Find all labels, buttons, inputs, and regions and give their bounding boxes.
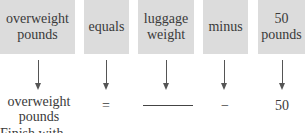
box-label-line1: luggage	[144, 11, 188, 26]
minus-sign: −	[221, 98, 229, 113]
box-label: equals	[89, 19, 125, 35]
box-equals: equals	[84, 0, 129, 54]
result-equals-sign: =	[96, 98, 116, 113]
equals-sign: =	[102, 98, 110, 113]
down-arrow-icon	[278, 60, 287, 90]
value-50: 50	[275, 98, 289, 113]
result-line1: overweight	[8, 94, 71, 109]
box-label: minus	[208, 19, 242, 35]
result-overweight-pounds: overweightpounds	[0, 94, 78, 124]
box-label-line2: pounds	[17, 27, 57, 42]
down-arrow-icon	[162, 60, 171, 90]
down-arrow-icon	[102, 60, 111, 90]
result-50: 50	[270, 98, 294, 113]
box-overweight-pounds: overweightpounds	[0, 0, 75, 54]
result-minus-sign: −	[215, 98, 235, 113]
box-luggage-weight: luggageweight	[138, 0, 194, 54]
box-label-line2: pounds	[261, 27, 301, 42]
down-arrow-icon	[34, 60, 43, 90]
box-50-pounds: 50pounds	[258, 0, 305, 54]
box-label-line1: overweight	[6, 11, 69, 26]
box-label-line1: 50	[274, 11, 288, 26]
footer-partial-text: Finish with	[0, 126, 63, 133]
result-line2: pounds	[19, 109, 59, 124]
box-minus: minus	[203, 0, 248, 54]
box-label-line2: weight	[147, 27, 185, 42]
blank-answer-line	[143, 105, 193, 106]
down-arrow-icon	[220, 60, 229, 90]
